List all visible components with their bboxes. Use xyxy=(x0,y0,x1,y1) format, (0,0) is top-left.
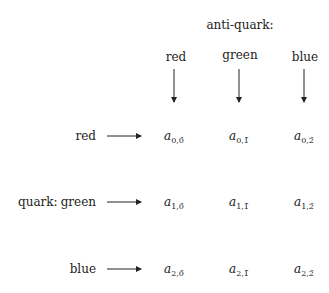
matrix-entry-2-2: a2,2̄ xyxy=(294,262,314,281)
column-label-green: green xyxy=(222,48,257,62)
matrix-entry-1-2: a1,2̄ xyxy=(294,195,314,214)
matrix-entry-1-1: a1,1̄ xyxy=(229,195,249,214)
quark-label: quark: xyxy=(18,195,58,209)
matrix-entry-2-1: a2,1̄ xyxy=(229,262,249,281)
matrix-entry-2-0: a2,0̄ xyxy=(164,262,184,281)
matrix-entry-1-0: a1,0̄ xyxy=(164,195,184,214)
row-label-green: green xyxy=(61,195,96,209)
matrix-entry-0-0: a0,0̄ xyxy=(164,129,184,148)
anti-quark-title: anti-quark: xyxy=(206,18,273,32)
row-label-red: red xyxy=(75,129,96,143)
column-label-blue: blue xyxy=(292,50,318,64)
matrix-entry-0-1: a0,1̄ xyxy=(229,129,249,148)
column-label-red: red xyxy=(166,50,187,64)
matrix-entry-0-2: a0,2̄ xyxy=(294,129,314,148)
row-label-blue: blue xyxy=(70,262,96,276)
